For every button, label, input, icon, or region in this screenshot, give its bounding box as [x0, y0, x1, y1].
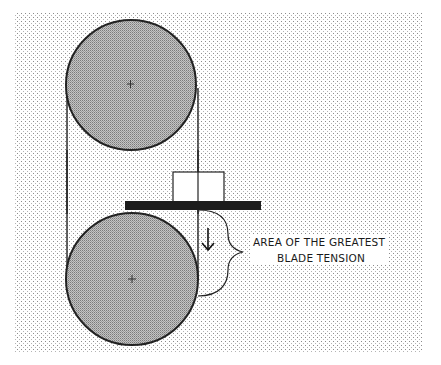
saw-table	[125, 201, 261, 210]
tension-annotation: AREA OF THE GREATEST BLADE TENSION	[250, 234, 388, 264]
annotation-line-1: AREA OF THE GREATEST	[253, 236, 386, 248]
lower-wheel	[66, 213, 198, 345]
annotation-line-2: BLADE TENSION	[277, 252, 365, 264]
blade-guide-block	[173, 172, 224, 202]
bandsaw-diagram: AREA OF THE GREATEST BLADE TENSION	[0, 0, 441, 365]
upper-wheel	[66, 20, 196, 150]
